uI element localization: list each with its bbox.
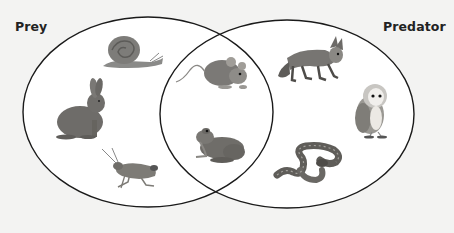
prey-set-label: Prey bbox=[15, 19, 47, 34]
venn-circles bbox=[0, 0, 454, 233]
venn-diagram: Prey Predator bbox=[0, 0, 454, 233]
predator-set-label: Predator bbox=[383, 19, 446, 34]
